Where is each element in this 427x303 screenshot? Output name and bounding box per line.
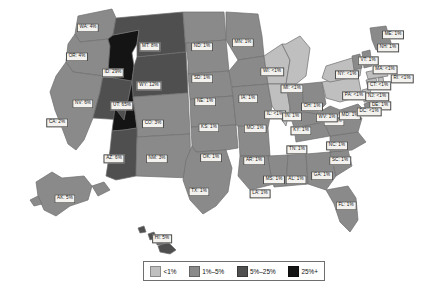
legend-swatch-icon bbox=[150, 266, 161, 277]
legend-label: <1% bbox=[164, 268, 177, 275]
state-label-me: ME: 1% bbox=[382, 30, 404, 39]
state-label-nc: NC: 1% bbox=[326, 141, 348, 150]
us-choropleth-map: WA: 4%OR: 4%CA: 2%NV: 6%ID: 29%MT: 8%WY:… bbox=[0, 0, 427, 303]
state-label-tn: TN: 1% bbox=[286, 145, 307, 154]
state-label-ak: AK: 5% bbox=[54, 194, 75, 203]
state-label-ct: CT: <1% bbox=[367, 81, 391, 90]
state-label-ri: RI: <1% bbox=[391, 74, 414, 83]
state-label-nh: NH: 1% bbox=[377, 43, 399, 52]
state-label-nd: ND: 1% bbox=[191, 42, 213, 51]
state-shape-mn[interactable] bbox=[226, 12, 264, 60]
state-label-or: OR: 4% bbox=[66, 52, 88, 61]
map-island-shape bbox=[92, 182, 110, 196]
state-label-nj: NJ: <1% bbox=[365, 92, 389, 101]
state-label-oh: OH: 1% bbox=[301, 102, 323, 111]
percent-range-legend: <1%1%–5%5%–25%25%+ bbox=[143, 261, 325, 281]
state-label-ms: MS: 1% bbox=[263, 175, 285, 184]
state-label-dc: DC: <1% bbox=[357, 107, 382, 116]
state-label-az: AZ: 6% bbox=[103, 154, 124, 163]
state-label-sc: SC: 1% bbox=[329, 156, 351, 165]
state-label-ky: KY: 1% bbox=[290, 126, 311, 135]
state-label-co: CO: 3% bbox=[142, 119, 164, 128]
state-label-sd: SD: 1% bbox=[191, 74, 213, 83]
state-label-mn: MN: 1% bbox=[232, 38, 254, 47]
state-label-al: AL: 1% bbox=[286, 175, 307, 184]
state-label-fl: FL: 1% bbox=[336, 201, 357, 210]
legend-swatch-icon bbox=[189, 266, 200, 277]
state-label-wy: WY: 12% bbox=[137, 81, 162, 90]
state-label-mi: MI: <1% bbox=[280, 84, 303, 93]
legend-entry-0: <1% bbox=[150, 266, 176, 277]
state-label-ga: GA: 1% bbox=[311, 171, 333, 180]
state-label-ma: MA: <1% bbox=[373, 65, 398, 74]
state-label-mo: MO: 1% bbox=[244, 124, 267, 133]
state-label-nm: NM: 3% bbox=[146, 154, 168, 163]
state-label-ny: NY: <1% bbox=[335, 70, 359, 79]
state-shape-co[interactable] bbox=[133, 93, 190, 137]
state-label-la: LA: 1% bbox=[250, 189, 271, 198]
state-label-tx: TX: 1% bbox=[188, 187, 209, 196]
state-label-pa: PA: <1% bbox=[342, 91, 366, 100]
state-label-ar: AR: 1% bbox=[243, 156, 265, 165]
state-label-hi: HI: 5% bbox=[152, 234, 172, 243]
state-label-ok: OK: 1% bbox=[200, 153, 222, 162]
legend-entry-2: 5%–25% bbox=[237, 266, 276, 277]
state-label-vt: VT: 1% bbox=[358, 56, 379, 65]
map-island-shape bbox=[138, 226, 146, 233]
state-label-ks: KS: 1% bbox=[198, 123, 219, 132]
legend-label: 5%–25% bbox=[250, 268, 276, 275]
legend-entry-3: 25%+ bbox=[288, 266, 318, 277]
legend-label: 1%–5% bbox=[202, 268, 224, 275]
state-label-in: IN: 1% bbox=[282, 112, 302, 121]
legend-entry-1: 1%–5% bbox=[189, 266, 225, 277]
state-label-ca: CA: 2% bbox=[46, 118, 68, 127]
state-label-wa: WA: 4% bbox=[77, 23, 99, 32]
state-label-ia: IA: 1% bbox=[238, 94, 258, 103]
legend-swatch-icon bbox=[237, 266, 248, 277]
state-label-wi: WI: <1% bbox=[260, 67, 284, 76]
state-label-mt: MT: 8% bbox=[139, 42, 160, 51]
legend-label: 25%+ bbox=[301, 268, 318, 275]
state-label-nv: NV: 6% bbox=[72, 99, 93, 108]
state-label-id: ID: 29% bbox=[102, 68, 124, 77]
state-label-ne: NE: 1% bbox=[194, 97, 216, 106]
state-shape-mo[interactable] bbox=[232, 84, 272, 128]
state-label-ut: UT: 65% bbox=[110, 101, 133, 110]
state-label-wv: WV: 1% bbox=[316, 113, 338, 122]
legend-swatch-icon bbox=[288, 266, 299, 277]
